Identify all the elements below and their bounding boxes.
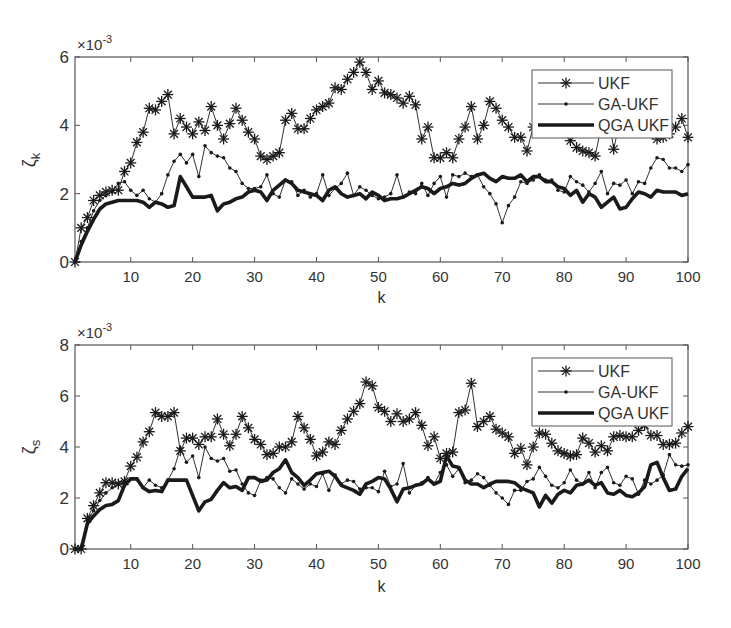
dot-marker [346,171,350,175]
asterisk-marker [676,113,687,124]
dot-marker [401,462,405,466]
dot-marker [240,182,244,186]
dot-marker [321,173,325,177]
series-qga-ukf [75,173,688,262]
dot-marker [661,158,665,162]
asterisk-marker [206,101,217,112]
asterisk-marker [280,442,291,453]
asterisk-marker [416,420,427,431]
dot-marker [278,486,282,490]
dot-marker [606,192,610,196]
asterisk-marker [76,222,87,233]
asterisk-marker [212,413,223,424]
series-line [75,173,688,262]
series-line [75,447,688,549]
x-tick-label: 20 [184,268,201,285]
asterisk-marker [367,380,378,391]
dot-marker [339,182,343,186]
dot-marker [612,481,616,485]
dot-marker [117,182,121,186]
asterisk-marker [336,84,347,95]
asterisk-marker [131,137,142,148]
y-tick-label: 6 [60,387,69,406]
dot-marker [302,487,306,491]
dot-marker [500,496,504,500]
x-tick-label: 100 [675,268,700,285]
dot-marker [575,478,579,482]
dot-marker [420,182,424,186]
dot-marker [358,185,362,189]
dot-marker [92,509,96,513]
dot-marker [129,188,133,192]
asterisk-marker [515,132,526,143]
legend-label: UKF [598,75,630,92]
dot-marker [271,477,275,481]
dot-marker [612,182,616,186]
y-tick-label: 4 [60,116,69,135]
asterisk-marker [138,436,149,447]
dot-marker [544,475,548,479]
y-exponent-label: ×10-3 [77,321,112,341]
dot-marker [185,461,189,465]
x-tick-label: 50 [370,555,387,572]
dot-marker [228,166,232,170]
dot-marker [98,499,102,503]
dot-marker [575,180,579,184]
asterisk-marker [561,366,572,377]
asterisk-marker [652,430,663,441]
asterisk-marker [410,407,421,418]
asterisk-marker [478,120,489,131]
asterisk-marker [336,425,347,436]
legend: UKFGA-UKFQGA UKF [532,358,672,426]
asterisk-marker [286,436,297,447]
asterisk-marker [354,57,365,68]
series-line [75,146,688,262]
dot-marker [259,185,263,189]
dot-marker [98,199,102,203]
dot-marker [395,173,399,177]
asterisk-marker [224,440,235,451]
asterisk-marker [410,99,421,110]
asterisk-marker [367,84,378,95]
asterisk-marker [299,123,310,134]
y-tick-label: 4 [60,438,69,457]
dot-marker [668,166,672,170]
y-tick-label: 0 [60,253,69,272]
asterisk-marker [435,152,446,163]
dot-marker [234,170,238,174]
dot-marker [451,173,455,177]
dot-marker [383,469,387,473]
dot-marker [538,466,542,470]
asterisk-marker [255,439,266,450]
dot-marker [600,471,604,475]
asterisk-marker [348,67,359,78]
asterisk-marker [206,431,217,442]
dot-marker [234,468,238,472]
asterisk-marker [125,461,136,472]
dot-marker [191,153,195,157]
dot-marker [525,480,529,484]
dot-marker [296,482,300,486]
y-tick-label: 0 [60,540,69,559]
asterisk-marker [596,440,607,451]
dot-marker [686,163,690,167]
dot-marker [203,144,207,148]
x-tick-label: 100 [675,555,700,572]
asterisk-marker [323,98,334,109]
dot-marker [606,466,610,470]
x-tick-label: 50 [370,268,387,285]
dot-marker [476,472,480,476]
asterisk-marker [633,425,644,436]
asterisk-marker [305,113,316,124]
dot-marker [265,173,269,177]
dot-marker [327,489,331,493]
dot-marker [346,478,350,482]
dot-marker [172,159,176,163]
dot-marker [463,171,467,175]
dot-marker [284,491,288,495]
dot-marker [432,182,436,186]
asterisk-marker [187,128,198,139]
dot-marker [178,153,182,157]
dot-marker [216,154,220,158]
dot-marker [370,486,374,490]
